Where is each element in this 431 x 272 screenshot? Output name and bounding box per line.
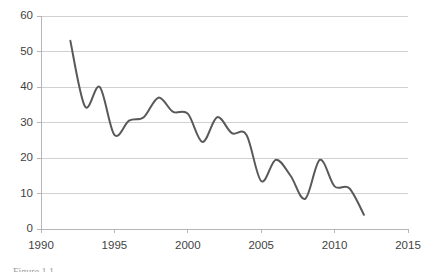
y-tick-label-20: 20: [20, 151, 33, 163]
chart-figure: 0102030405060 199019952000200520102015 F…: [0, 0, 431, 272]
figure-caption: Figure 1.1: [13, 262, 54, 272]
y-tick-label-0: 0: [27, 222, 33, 234]
gridlines: [41, 16, 408, 194]
y-tick-label-60: 60: [20, 9, 33, 21]
y-tick-label-40: 40: [20, 80, 33, 92]
x-tick-label-2010: 2010: [322, 239, 348, 251]
y-axis-tick-labels: 0102030405060: [20, 9, 33, 234]
x-tick-label-2015: 2015: [395, 239, 421, 251]
line-chart: 0102030405060 199019952000200520102015: [0, 0, 431, 272]
y-tick-label-10: 10: [20, 187, 33, 199]
data-series: [70, 41, 364, 215]
x-axis-tick-labels: 199019952000200520102015: [28, 239, 421, 251]
y-axis: [37, 16, 41, 229]
y-tick-label-30: 30: [20, 116, 33, 128]
series-line-1: [70, 41, 364, 215]
x-tick-label-2000: 2000: [175, 239, 201, 251]
x-axis: [41, 229, 408, 233]
y-tick-label-50: 50: [20, 45, 33, 57]
x-tick-label-2005: 2005: [248, 239, 274, 251]
x-tick-label-1995: 1995: [102, 239, 128, 251]
x-tick-label-1990: 1990: [28, 239, 54, 251]
